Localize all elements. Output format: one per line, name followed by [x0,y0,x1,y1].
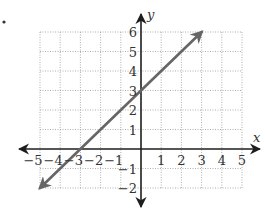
y-tick-label: 2 [129,103,137,118]
x-tick-label: 5 [238,153,246,168]
x-tick-label: 1 [157,153,165,168]
x-tick-label: −3 [64,153,83,168]
x-axis-label: x [253,130,261,145]
x-tick-label: 2 [177,153,185,168]
bullet-marker [2,20,5,23]
x-tick-label: 4 [218,153,226,168]
y-tick-label: 3 [129,84,137,99]
y-tick-label: −1 [118,162,137,177]
y-tick-label: 5 [129,45,137,60]
y-tick-label: −2 [118,181,137,196]
coordinate-plane-chart: −5−4−3−2−112345−2−1123456 x y [0,0,265,211]
x-tick-label: −2 [84,153,103,168]
y-axis-label: y [146,7,155,22]
axes [19,14,260,207]
y-tick-label: 6 [129,25,137,40]
y-tick-label: 1 [129,123,137,138]
x-tick-label: −4 [44,153,63,168]
x-tick-label: −5 [23,153,42,168]
y-tick-label: 4 [129,64,137,79]
x-tick-label: 3 [197,153,205,168]
